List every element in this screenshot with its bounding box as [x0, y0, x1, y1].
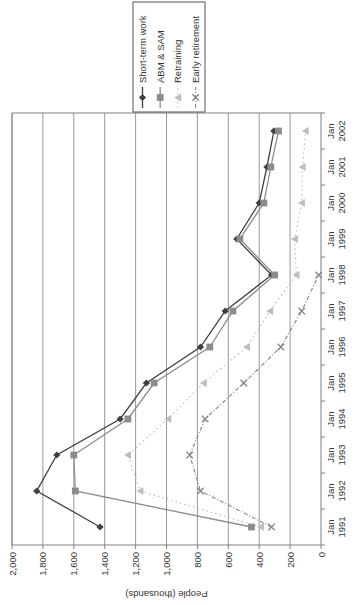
x-tick-label: Jan1994	[325, 408, 347, 429]
legend-marker-square-icon	[157, 94, 164, 101]
y-tick-label: 2,000	[7, 552, 18, 576]
line-chart: 02004006008001,0001,2001,4001,6001,8002,…	[0, 0, 356, 605]
y-tick-label: 1,800	[37, 552, 48, 576]
y-tick-label: 200	[285, 552, 296, 568]
y-tick-label: 0	[316, 552, 327, 557]
x-tick-label: Jan2000	[325, 192, 347, 213]
x-tick-label: Jan1997	[325, 300, 347, 321]
data-point-marker	[260, 200, 267, 207]
y-tick-label: 1,600	[68, 552, 79, 576]
rotated-chart-page: 02004006008001,0001,2001,4001,6001,8002,…	[0, 0, 356, 605]
y-axis-title: People (thousands)	[125, 589, 207, 600]
y-tick-label: 1,000	[161, 552, 172, 576]
data-point-marker	[70, 452, 77, 459]
x-tick-label: Jan1996	[325, 336, 347, 357]
y-tick-label: 800	[192, 552, 203, 568]
data-point-marker	[151, 380, 158, 387]
legend-label: Short-term work	[137, 15, 148, 83]
y-tick-label: 1,200	[130, 552, 141, 576]
chart-landscape-wrapper: 02004006008001,0001,2001,4001,6001,8002,…	[0, 0, 356, 605]
data-point-marker	[230, 308, 237, 315]
x-tick-label: Jan1999	[325, 228, 347, 249]
y-tick-label: 1,400	[99, 552, 110, 576]
x-tick-label: Jan1991	[325, 516, 347, 537]
y-tick-label: 400	[254, 552, 265, 568]
y-tick-label: 600	[223, 552, 234, 568]
x-tick-label: Jan2001	[325, 156, 347, 177]
legend-label: Retraining	[172, 40, 183, 83]
legend-label: ABM & SAM	[155, 30, 166, 83]
legend-label: Early retirement	[190, 16, 201, 83]
x-tick-label: Jan1995	[325, 372, 347, 393]
data-point-marker	[267, 164, 274, 171]
data-point-marker	[72, 488, 79, 495]
x-tick-label: Jan2002	[325, 120, 347, 141]
x-tick-label: Jan1993	[325, 444, 347, 465]
data-point-marker	[271, 272, 278, 279]
x-tick-label: Jan1998	[325, 264, 347, 285]
x-tick-label: Jan1992	[325, 480, 347, 501]
data-point-marker	[275, 128, 282, 135]
data-point-marker	[124, 416, 131, 423]
data-point-marker	[206, 344, 213, 351]
data-point-marker	[236, 236, 243, 243]
